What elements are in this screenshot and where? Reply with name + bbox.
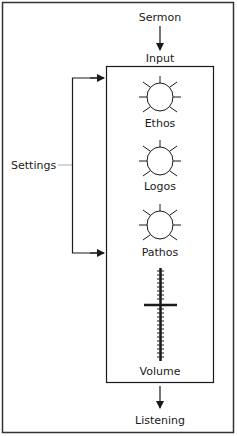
settings-label: Settings [11, 159, 56, 172]
ethos-label: Ethos [145, 117, 176, 130]
pathos-label: Pathos [142, 246, 179, 259]
volume-label: Volume [140, 365, 181, 378]
logos-knob[interactable] [139, 140, 181, 176]
sermon-diagram: Sermon Input Settings Ethos Logos [0, 0, 237, 436]
logos-label: Logos [144, 180, 176, 193]
settings-bracket [73, 78, 103, 253]
volume-slider[interactable] [144, 268, 177, 361]
ethos-knob[interactable] [139, 76, 181, 112]
input-label: Input [146, 52, 175, 65]
pathos-knob[interactable] [139, 204, 181, 240]
listening-label: Listening [135, 414, 185, 427]
sermon-label: Sermon [139, 11, 182, 24]
